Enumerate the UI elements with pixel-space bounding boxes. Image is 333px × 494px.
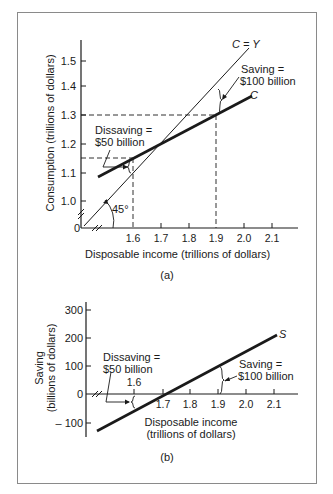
svg-text:$50 billion: $50 billion — [103, 363, 153, 375]
x-axis-label: Disposable income (trillions of dollars) — [85, 248, 270, 260]
saving-brace-icon — [220, 367, 224, 394]
svg-text:1.4: 1.4 — [61, 80, 76, 92]
svg-text:1.0: 1.0 — [61, 195, 76, 207]
panel-b: 300 200 100 0 – 100 1.6 1.7 1.8 1.9 2.0 … — [33, 302, 298, 463]
y-ticks — [86, 310, 91, 423]
y-axis-label: Saving (billions of dollars) — [33, 324, 57, 413]
svg-text:1.9: 1.9 — [209, 232, 224, 244]
caption-b: (b) — [160, 451, 173, 463]
svg-text:1.6: 1.6 — [126, 232, 141, 244]
x-tick-labels: 1.6 1.7 1.8 1.9 2.0 2.1 — [126, 232, 280, 244]
y-tick-labels: 1.5 1.4 1.3 1.2 1.1 1.0 0 — [61, 55, 80, 234]
svg-text:Dissaving =: Dissaving = — [103, 351, 160, 363]
svg-text:$100 billion: $100 billion — [240, 75, 296, 87]
svg-text:Dissaving =: Dissaving = — [95, 124, 152, 136]
svg-text:Saving =: Saving = — [239, 358, 282, 370]
svg-text:1.2: 1.2 — [61, 138, 76, 150]
y-axis-label: Consumption (trillions of dollars) — [44, 54, 56, 211]
dissaving-pointer — [106, 372, 129, 402]
arrow-icon — [103, 199, 108, 204]
x-ticks — [134, 389, 274, 394]
panel-a: 1.5 1.4 1.3 1.2 1.1 1.0 0 1.6 1.7 1.8 1.… — [44, 38, 298, 281]
x-tick-label: 1.6 — [127, 376, 142, 388]
svg-text:1.5: 1.5 — [61, 55, 76, 67]
svg-text:1.3: 1.3 — [61, 109, 76, 121]
arrow-icon — [123, 165, 128, 170]
saving-annotation: Saving = $100 billion — [238, 358, 294, 382]
dissaving-annotation: Dissaving = $50 billion — [103, 351, 160, 375]
caption-a: (a) — [160, 269, 173, 281]
svg-text:Disposable income: Disposable income — [145, 416, 238, 428]
x-ticks — [161, 223, 272, 228]
svg-text:0: 0 — [74, 222, 80, 234]
svg-text:$100 billion: $100 billion — [238, 370, 294, 382]
svg-text:0: 0 — [77, 388, 83, 400]
svg-text:2.0: 2.0 — [237, 232, 252, 244]
svg-text:– 100: – 100 — [55, 417, 83, 429]
svg-text:1.8: 1.8 — [183, 398, 198, 410]
svg-text:1.7: 1.7 — [154, 232, 169, 244]
svg-text:$50 billion: $50 billion — [95, 136, 145, 148]
y-tick-labels: 300 200 100 0 – 100 — [55, 304, 83, 429]
svg-text:1.8: 1.8 — [182, 232, 197, 244]
line-label-s: S — [279, 328, 287, 340]
svg-text:2.0: 2.0 — [239, 398, 254, 410]
svg-text:300: 300 — [65, 304, 83, 316]
svg-text:100: 100 — [65, 360, 83, 372]
svg-text:200: 200 — [65, 332, 83, 344]
y-ticks — [81, 61, 86, 201]
svg-text:(billions of dollars): (billions of dollars) — [45, 324, 57, 413]
x-tick-labels: 1.7 1.8 1.9 2.0 2.1 — [156, 398, 282, 410]
dissaving-annotation: Dissaving = $50 billion — [95, 124, 152, 148]
saving-annotation: Saving = $100 billion — [240, 63, 296, 87]
svg-text:Saving: Saving — [33, 351, 45, 385]
svg-text:1.9: 1.9 — [211, 398, 226, 410]
svg-text:2.1: 2.1 — [267, 398, 282, 410]
svg-text:2.1: 2.1 — [265, 232, 280, 244]
svg-text:(trillions of dollars): (trillions of dollars) — [146, 428, 235, 440]
angle-label: 45° — [112, 203, 129, 215]
svg-text:Saving =: Saving = — [241, 63, 284, 75]
arrow-icon — [224, 377, 230, 381]
x-axis-label: Disposable income (trillions of dollars) — [145, 416, 238, 440]
line-label-c: C — [250, 89, 258, 101]
figure-canvas: 1.5 1.4 1.3 1.2 1.1 1.0 0 1.6 1.7 1.8 1.… — [0, 0, 333, 494]
svg-text:1.1: 1.1 — [61, 167, 76, 179]
saving-pointer — [223, 77, 239, 99]
dissaving-brace-icon — [131, 396, 135, 408]
arrow-icon — [125, 400, 130, 405]
line-label-c-equals-y: C = Y — [232, 38, 260, 50]
